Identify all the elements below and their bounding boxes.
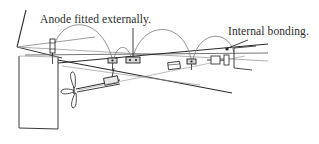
shaft-coupling-1 [168, 61, 181, 69]
propeller-blade-left [61, 89, 74, 94]
bonding-arc-3 [133, 29, 191, 59]
annotation-anode-label: Anode fitted externally. [40, 14, 151, 26]
anode-block-2 [108, 58, 117, 70]
shaft-bearing-block [104, 76, 119, 86]
propeller-shaft-lower [77, 84, 120, 92]
technical-diagram: Anode fitted externally. Internal bondin… [0, 0, 319, 144]
shaft-coupling-2 [207, 55, 229, 65]
propeller-blade-upper [71, 72, 76, 88]
propeller-blade-lower [72, 93, 77, 108]
hull-keel-line [62, 66, 200, 85]
transom-bottom-edge [19, 128, 58, 129]
bonding-terminal-dot [225, 47, 228, 50]
anode-block-4 [187, 59, 196, 70]
transom-top-edge [17, 37, 95, 47]
stem-line [17, 10, 26, 47]
anode-block-1 [50, 39, 55, 64]
anode-block-3 [126, 57, 140, 63]
stern-gear-bracket [234, 46, 256, 70]
transom-group [17, 10, 95, 129]
annotation-bonding-label: Internal bonding. [228, 26, 309, 38]
